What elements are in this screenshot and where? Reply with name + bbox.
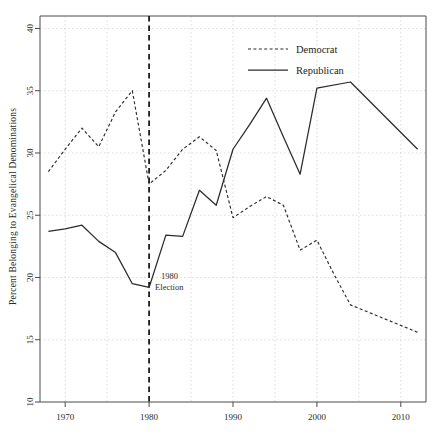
y-tick-label: 10 — [25, 397, 35, 407]
y-tick-label: 20 — [25, 272, 35, 282]
chart-legend: Democrat Republican — [248, 44, 345, 76]
annotation-line-1: 1980 — [161, 271, 178, 281]
annotation-line-2: Election — [155, 282, 184, 292]
x-tick-label: 2000 — [308, 412, 327, 422]
y-tick-label: 15 — [25, 335, 35, 345]
y-tick-label: 40 — [25, 23, 35, 33]
x-tick-label: 1990 — [224, 412, 243, 422]
x-tick-label: 1980 — [140, 412, 159, 422]
series-layer — [48, 82, 417, 332]
x-tick-label: 2010 — [392, 412, 411, 422]
grid-layer — [40, 16, 426, 402]
annotation-1980-election: 1980 Election — [155, 271, 184, 292]
y-tick-label: 35 — [25, 86, 35, 96]
chart-container: 1015202530354019701980199020002010 Perce… — [0, 0, 440, 437]
legend-label-republican: Republican — [296, 65, 345, 76]
line-chart: 1015202530354019701980199020002010 Perce… — [0, 0, 440, 437]
legend-label-democrat: Democrat — [296, 44, 337, 55]
x-tick-label: 1970 — [56, 412, 75, 422]
y-tick-label: 25 — [25, 210, 35, 220]
y-axis-label: Percent Belonging to Evangelical Denomin… — [8, 108, 18, 305]
y-tick-label: 30 — [25, 148, 35, 158]
